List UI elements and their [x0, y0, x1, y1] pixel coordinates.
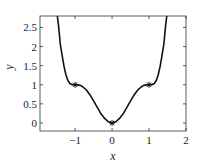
y-axis-ticks: 00.511.522.5: [23, 21, 186, 129]
y-tick-label: 2: [32, 41, 38, 53]
asterisk-marker: [72, 82, 78, 88]
y-tick-label: 0.5: [23, 98, 37, 110]
y-tick-label: 0: [32, 117, 38, 129]
y-tick-label: 1: [32, 79, 38, 91]
x-tick-label: 0: [109, 134, 115, 146]
x-axis-ticks: −1012: [69, 16, 188, 146]
x-tick-label: 1: [146, 134, 152, 146]
y-axis-label: y: [2, 64, 16, 71]
asterisk-marker: [109, 120, 115, 126]
y-tick-label: 1.5: [23, 60, 37, 72]
asterisk-marker: [146, 82, 152, 88]
x-axis-label: x: [109, 149, 116, 163]
y-tick-label: 2.5: [23, 21, 37, 33]
x-tick-label: −1: [69, 134, 81, 146]
chart: −1012 00.511.522.5 x y: [0, 0, 198, 166]
x-tick-label: 2: [183, 134, 189, 146]
